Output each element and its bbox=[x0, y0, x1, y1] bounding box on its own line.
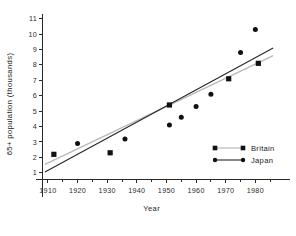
y-tick-label: 10 bbox=[28, 30, 37, 39]
y-tick-label: 1 bbox=[33, 168, 37, 177]
x-tick-label: 1960 bbox=[187, 186, 204, 195]
y-tick-label: 4 bbox=[33, 122, 37, 131]
y-tick-label: 9 bbox=[33, 45, 37, 54]
legend-marker-britain bbox=[213, 146, 218, 151]
legend-marker-japan bbox=[213, 158, 217, 162]
data-point-britain bbox=[108, 150, 113, 155]
y-tick-label: 11 bbox=[29, 14, 37, 23]
y-tick-label: 2 bbox=[33, 153, 37, 162]
x-tick-label: 1940 bbox=[128, 186, 145, 195]
scatter-plot: 1234567891011191019201930194019501960197… bbox=[0, 0, 296, 236]
data-point-japan bbox=[167, 123, 172, 128]
data-point-britain bbox=[256, 61, 261, 66]
y-tick-label: 8 bbox=[33, 60, 37, 69]
data-point-britain bbox=[226, 76, 231, 81]
data-point-japan bbox=[179, 115, 184, 120]
data-point-britain bbox=[51, 152, 56, 157]
legend-marker-japan bbox=[241, 158, 245, 162]
legend-marker-britain bbox=[241, 146, 246, 151]
trend-line-japan bbox=[45, 48, 273, 172]
legend-label-japan: Japan bbox=[251, 156, 273, 165]
data-point-britain bbox=[167, 102, 172, 107]
data-point-japan bbox=[75, 141, 80, 146]
x-tick-label: 1910 bbox=[39, 186, 56, 195]
x-tick-label: 1950 bbox=[158, 186, 175, 195]
y-tick-label: 3 bbox=[33, 138, 37, 147]
data-point-japan bbox=[208, 92, 213, 97]
y-tick-label: 6 bbox=[33, 91, 37, 100]
y-tick-label: 7 bbox=[33, 76, 37, 85]
x-tick-label: 1980 bbox=[247, 186, 264, 195]
legend-label-britain: Britain bbox=[251, 144, 275, 153]
y-tick-label: 5 bbox=[33, 107, 37, 116]
data-point-japan bbox=[238, 50, 243, 55]
data-point-japan bbox=[253, 27, 258, 32]
chart-figure: 1234567891011191019201930194019501960197… bbox=[0, 0, 296, 236]
y-axis-title: 65+ population (thousands) bbox=[5, 53, 14, 156]
x-tick-label: 1970 bbox=[217, 186, 234, 195]
data-point-japan bbox=[194, 104, 199, 109]
data-point-japan bbox=[122, 136, 127, 141]
x-tick-label: 1930 bbox=[99, 186, 116, 195]
x-axis-title: Year bbox=[143, 204, 160, 213]
x-tick-label: 1920 bbox=[69, 186, 86, 195]
